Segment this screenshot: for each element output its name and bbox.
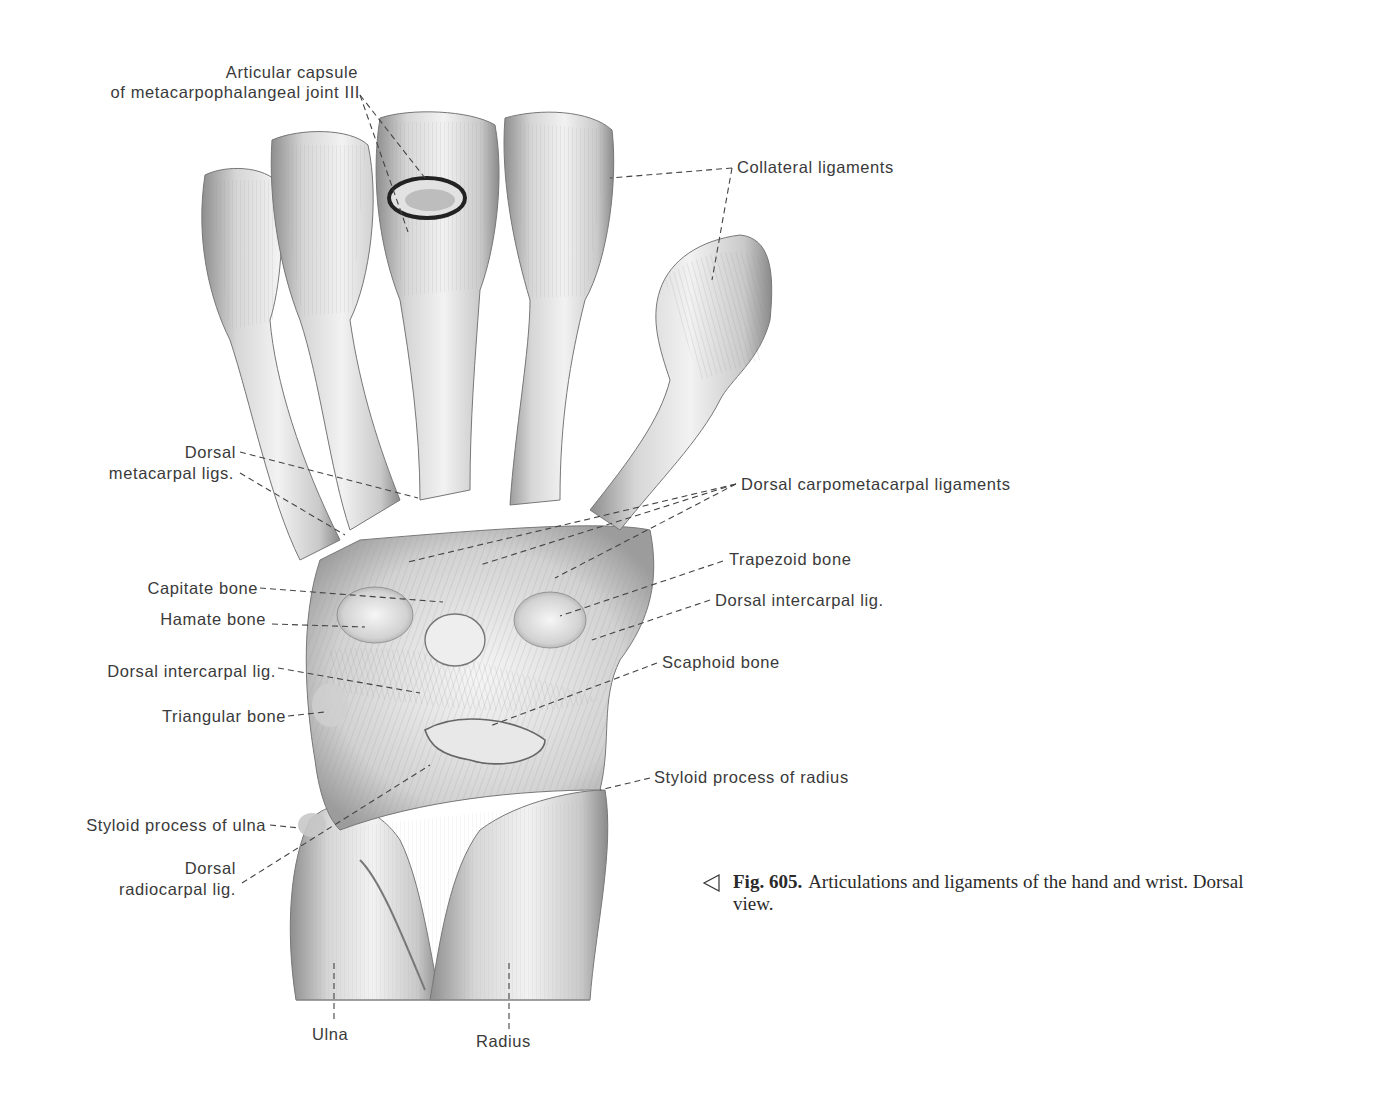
label-trapezoid-bone: Trapezoid bone	[729, 549, 851, 569]
figure-page: Articular capsule of metacarpophalangeal…	[0, 0, 1397, 1107]
label-dorsal-intercarpal-left: Dorsal intercarpal lig.	[60, 661, 276, 681]
hand-wrist-illustration	[0, 0, 1397, 1107]
metacarpal-bones	[202, 112, 772, 560]
label-dorsal-radiocarpal-line1: Dorsal	[100, 858, 236, 878]
label-dorsal-carpometacarpal: Dorsal carpometacarpal ligaments	[741, 474, 1011, 494]
hamate-bone-shape	[337, 587, 413, 643]
label-dorsal-metacarpal-line1: Dorsal	[80, 442, 236, 462]
label-hamate-bone: Hamate bone	[100, 609, 266, 629]
label-dorsal-metacarpal-line2: metacarpal ligs.	[80, 463, 234, 483]
label-triangular-bone: Triangular bone	[100, 706, 286, 726]
figure-caption: Fig. 605.Articulations and ligaments of …	[703, 871, 1343, 915]
label-ulna: Ulna	[312, 1024, 348, 1044]
trapezoid-bone-shape	[514, 592, 586, 648]
caption-line2: view.	[733, 893, 773, 914]
label-styloid-process-ulna: Styloid process of ulna	[40, 815, 266, 835]
label-articular-capsule-line2: of metacarpophalangeal joint III	[60, 82, 360, 102]
label-capitate-bone: Capitate bone	[100, 578, 258, 598]
label-scaphoid-bone: Scaphoid bone	[662, 652, 780, 672]
label-radius: Radius	[476, 1031, 531, 1051]
label-collateral-ligaments: Collateral ligaments	[737, 157, 894, 177]
figure-number: Fig. 605.	[733, 871, 802, 892]
label-dorsal-radiocarpal-line2: radiocarpal lig.	[100, 879, 236, 899]
caption-line1: Articulations and ligaments of the hand …	[808, 871, 1243, 892]
capitate-head-shape	[425, 614, 485, 666]
caption-text: Fig. 605.Articulations and ligaments of …	[733, 871, 1343, 915]
label-dorsal-intercarpal-right: Dorsal intercarpal lig.	[715, 590, 884, 610]
left-triangle-pointer-icon	[702, 873, 722, 893]
triangular-bone-shape	[312, 683, 348, 727]
label-styloid-process-radius: Styloid process of radius	[654, 767, 849, 787]
label-articular-capsule-line1: Articular capsule	[60, 62, 358, 82]
